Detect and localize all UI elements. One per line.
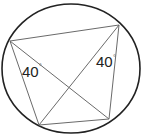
- angle-label-b: 40 °: [96, 53, 116, 70]
- circle-diagram: 40 ° 40 °: [0, 0, 143, 137]
- angle-label-a: 40 °: [22, 63, 42, 80]
- degree-symbol-a: °: [39, 63, 42, 70]
- segment-ac: [10, 41, 109, 119]
- segment-bd: [39, 25, 119, 125]
- segment-ab: [10, 25, 119, 41]
- degree-symbol-b: °: [113, 54, 116, 61]
- segment-da: [10, 41, 39, 125]
- angle-value-a: 40: [22, 63, 39, 80]
- segment-cd: [39, 119, 109, 125]
- angle-value-b: 40: [96, 53, 113, 70]
- segment-bc: [109, 25, 119, 119]
